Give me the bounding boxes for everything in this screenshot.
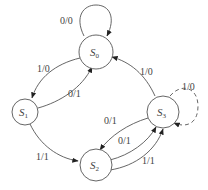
label-s1-s0: 0/1 xyxy=(68,88,81,99)
label-s1-s2: 1/1 xyxy=(36,151,49,162)
edge-s0-self xyxy=(80,5,111,36)
state-s1: S1 xyxy=(12,99,38,125)
label-s3-s2: 0/1 xyxy=(104,115,117,126)
label-s2-s3-a: 0/1 xyxy=(118,135,131,146)
state-s3: S3 xyxy=(147,96,179,128)
state-s2: S2 xyxy=(80,149,112,181)
label-s3-self: 1/0 xyxy=(182,81,195,92)
state-s0: S0 xyxy=(79,35,113,69)
label-s0-self: 0/0 xyxy=(60,15,73,26)
label-s3-s0: 1/0 xyxy=(140,66,153,77)
label-s0-s1: 1/0 xyxy=(37,63,50,74)
state-diagram: 0/0 1/0 0/1 1/1 1/0 1/0 0/1 0/1 1/1 S0 S… xyxy=(0,0,208,190)
label-s2-s3-b: 1/1 xyxy=(142,155,155,166)
